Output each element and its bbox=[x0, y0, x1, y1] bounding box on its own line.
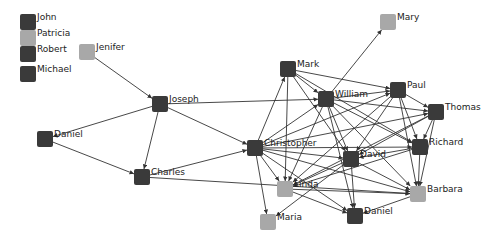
node-label: Barbara bbox=[427, 184, 463, 194]
network-graph: JohnPatriciaRobertMichael JeniferJosephD… bbox=[0, 0, 497, 252]
edge-joseph-charles bbox=[144, 109, 159, 169]
node-square[interactable] bbox=[428, 104, 444, 120]
node-label: Jenifer bbox=[95, 42, 125, 52]
edge-paul-thomas bbox=[403, 93, 428, 108]
node-square[interactable] bbox=[247, 140, 263, 156]
node-label: Daniel bbox=[54, 129, 83, 139]
node-jenifer[interactable]: Jenifer bbox=[79, 42, 125, 60]
node-square[interactable] bbox=[134, 169, 150, 185]
node-label: Mary bbox=[397, 12, 420, 22]
node-square[interactable] bbox=[410, 186, 426, 202]
node-mary[interactable]: Mary bbox=[380, 12, 420, 30]
node-label: William bbox=[335, 89, 368, 99]
node-label: Robert bbox=[37, 44, 67, 54]
node-square[interactable] bbox=[20, 66, 36, 82]
node-label: Patricia bbox=[37, 28, 70, 38]
edge-christopher-mark bbox=[257, 77, 285, 143]
node-square[interactable] bbox=[277, 181, 293, 197]
node-square[interactable] bbox=[152, 96, 168, 112]
edge-joseph-christopher bbox=[165, 106, 247, 144]
legend: JohnPatriciaRobertMichael bbox=[20, 12, 71, 82]
node-label: John bbox=[36, 12, 57, 22]
node-label: Richard bbox=[429, 137, 463, 147]
node-daniel1[interactable]: Daniel bbox=[37, 129, 83, 147]
node-square[interactable] bbox=[260, 214, 276, 230]
node-square[interactable] bbox=[280, 61, 296, 77]
node-label: Michael bbox=[37, 64, 71, 74]
edge-daniel1-charles bbox=[50, 141, 134, 174]
node-square[interactable] bbox=[37, 131, 53, 147]
edges-layer bbox=[50, 30, 435, 216]
node-square[interactable] bbox=[347, 208, 363, 224]
node-square[interactable] bbox=[343, 151, 359, 167]
edge-jenifer-joseph bbox=[92, 55, 152, 98]
edge-david-barbara bbox=[356, 162, 410, 190]
node-barbara[interactable]: Barbara bbox=[410, 184, 463, 202]
node-charles[interactable]: Charles bbox=[134, 167, 185, 185]
node-square[interactable] bbox=[318, 91, 334, 107]
node-label: Mark bbox=[297, 59, 320, 69]
node-square[interactable] bbox=[79, 44, 95, 60]
node-square[interactable] bbox=[380, 14, 396, 30]
node-label: Charles bbox=[151, 167, 185, 177]
node-square[interactable] bbox=[20, 14, 36, 30]
node-joseph[interactable]: Joseph bbox=[152, 94, 199, 112]
node-square[interactable] bbox=[390, 82, 406, 98]
node-square[interactable] bbox=[20, 46, 36, 62]
node-william[interactable]: William bbox=[318, 89, 368, 107]
node-thomas[interactable]: Thomas bbox=[428, 102, 481, 120]
edge-mark-william bbox=[293, 73, 318, 93]
edge-paul-richard bbox=[400, 95, 417, 139]
node-label: Joseph bbox=[168, 94, 199, 104]
node-square[interactable] bbox=[412, 139, 428, 155]
node-christopher[interactable]: Christopher bbox=[247, 138, 317, 156]
edge-william-mary bbox=[330, 30, 382, 94]
node-label: Daniel bbox=[364, 206, 393, 216]
node-label: David bbox=[360, 149, 386, 159]
edge-linda-daniel2 bbox=[290, 191, 347, 213]
node-square[interactable] bbox=[20, 30, 36, 46]
node-label: Thomas bbox=[444, 102, 481, 112]
node-label: Paul bbox=[407, 80, 426, 90]
legend-item-robert[interactable]: Robert bbox=[20, 44, 67, 62]
node-richard[interactable]: Richard bbox=[412, 137, 463, 155]
edge-william-barbara bbox=[331, 104, 411, 186]
node-label: Maria bbox=[277, 212, 302, 222]
edge-richard-barbara bbox=[418, 152, 419, 186]
node-daniel2[interactable]: Daniel bbox=[347, 206, 393, 224]
node-maria[interactable]: Maria bbox=[260, 212, 302, 230]
legend-item-michael[interactable]: Michael bbox=[20, 64, 71, 82]
node-label: Linda bbox=[294, 179, 318, 189]
node-label: Christopher bbox=[264, 138, 317, 148]
